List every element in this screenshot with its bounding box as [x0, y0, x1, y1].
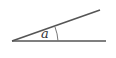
angle-arc: [55, 27, 58, 41]
angle-diagram: a: [0, 0, 116, 58]
upper-ray: [12, 10, 100, 41]
angle-label: a: [41, 26, 49, 41]
